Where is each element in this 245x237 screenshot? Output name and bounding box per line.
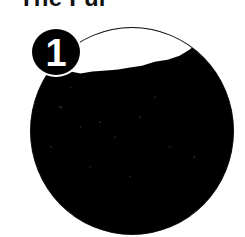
step-number: 1	[45, 34, 66, 72]
figure-panel: The Fur 1	[0, 0, 245, 237]
section-title: The Fur	[19, 0, 108, 10]
step-number-badge: 1	[30, 27, 82, 77]
